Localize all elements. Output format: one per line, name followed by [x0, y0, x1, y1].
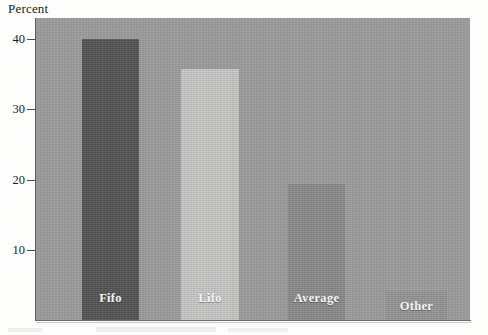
bar-texture-lifo	[181, 69, 239, 320]
bar-label-average: Average	[288, 291, 345, 306]
y-tick-label-10: 10	[0, 243, 25, 258]
bar-label-other: Other	[386, 299, 447, 314]
plot-area: Fifo Lifo Average Other	[36, 18, 470, 320]
bar-other[interactable]: Other	[386, 291, 447, 320]
x-axis-line-shadow	[36, 322, 471, 323]
y-tick-mark-20	[27, 180, 36, 181]
bar-texture-fifo	[82, 39, 139, 320]
bar-lifo[interactable]: Lifo	[181, 69, 239, 320]
y-tick-label-30: 30	[0, 102, 25, 117]
y-tick-mark-40	[27, 39, 36, 40]
bar-average[interactable]: Average	[288, 184, 345, 320]
y-tick-mark-10	[27, 250, 36, 251]
bar-label-fifo: Fifo	[82, 291, 139, 306]
x-axis-line	[36, 320, 471, 321]
y-tick-mark-30	[27, 109, 36, 110]
bar-label-lifo: Lifo	[181, 291, 239, 306]
scan-artifact-3	[228, 328, 288, 332]
scan-artifact-1	[8, 328, 42, 332]
y-tick-label-40: 40	[0, 32, 25, 47]
scan-artifact-2	[96, 327, 216, 332]
bar-chart-figure: Percent Fifo Lifo Average Other 40 30 20	[0, 0, 488, 335]
y-axis-title: Percent	[8, 1, 48, 17]
y-axis-line	[35, 18, 36, 321]
bar-fifo[interactable]: Fifo	[82, 39, 139, 320]
y-tick-label-20: 20	[0, 173, 25, 188]
